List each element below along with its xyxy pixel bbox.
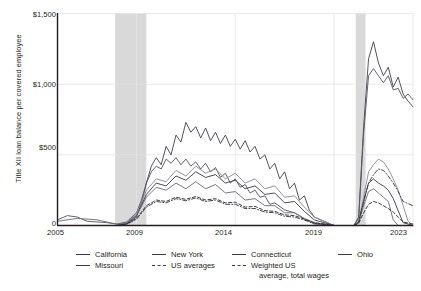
legend-swatch-dashdot-icon [232,265,246,266]
legend-swatch-solid-icon [338,254,352,255]
legend-label: Missouri [95,261,123,270]
legend-swatch-solid-icon [152,254,166,255]
recession-band [115,14,146,226]
legend-label: Weighted US [251,261,296,270]
legend-label-line2: average, total wages [259,271,329,280]
legend-swatch-solid-icon [76,265,90,266]
legend-label: US averages [171,261,215,270]
legend-label: New York [171,250,203,259]
legend-swatch-dashed-icon [152,265,166,266]
recession-shading [115,14,365,226]
legend-swatch-solid-icon [232,254,246,255]
legend-swatch-solid-icon [76,254,90,255]
chart-figure: Title XII loan balance per covered emplo… [0,0,421,291]
chart-legend: California Missouri New York US averages… [0,248,421,291]
legend-label: Connecticut [251,250,291,259]
legend-label: Ohio [357,250,373,259]
legend-label: California [95,250,127,259]
